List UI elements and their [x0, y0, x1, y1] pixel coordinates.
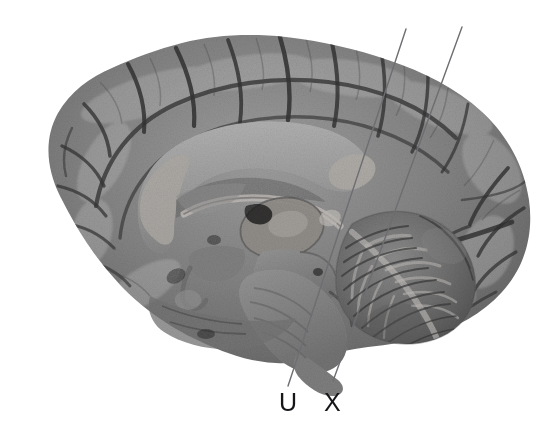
temporal-shadow-spot: [197, 329, 215, 339]
label-u: U: [279, 390, 298, 415]
pituitary-gland: [175, 290, 201, 310]
cerebral-aqueduct: [313, 268, 323, 276]
brain-figure: U X: [0, 0, 552, 444]
label-x: X: [324, 390, 341, 415]
brain-illustration: [0, 0, 552, 444]
anterior-commissure: [207, 235, 221, 245]
